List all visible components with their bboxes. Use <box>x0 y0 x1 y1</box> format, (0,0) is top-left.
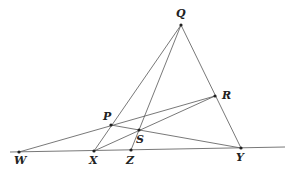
label-q: Q <box>176 7 186 20</box>
point-z <box>129 148 132 151</box>
segment-py <box>111 125 241 148</box>
label-w: W <box>14 154 28 167</box>
diagram-svg: QRPSWXZY <box>0 0 296 173</box>
label-x: X <box>88 154 98 167</box>
point-p <box>109 123 112 126</box>
label-r: R <box>221 89 231 102</box>
label-s: S <box>136 133 144 146</box>
point-x <box>92 149 95 152</box>
geometry-diagram: QRPSWXZY <box>0 0 296 173</box>
point-r <box>213 94 216 97</box>
point-s <box>137 128 140 131</box>
point-q <box>179 23 182 26</box>
point-y <box>239 146 242 149</box>
label-z: Z <box>125 154 135 167</box>
segment-xr <box>94 96 215 151</box>
label-y: Y <box>236 151 245 164</box>
points <box>17 23 242 153</box>
segment-wr <box>19 96 215 152</box>
point-labels: QRPSWXZY <box>14 7 245 167</box>
segment-qy <box>181 25 241 148</box>
label-p: P <box>102 110 112 123</box>
line-segments <box>10 25 285 152</box>
